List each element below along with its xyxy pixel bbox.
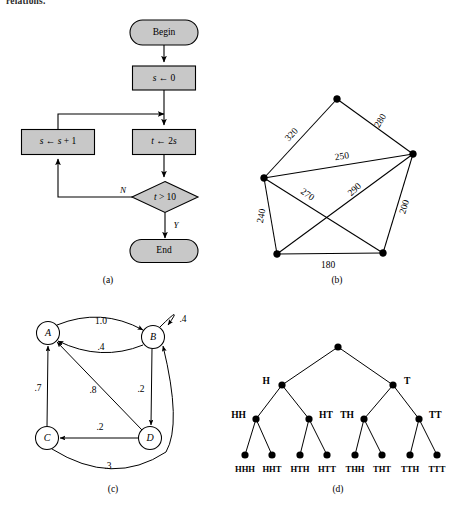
tree-node-root[interactable]	[334, 343, 341, 350]
tree-node-h[interactable]	[278, 381, 285, 388]
tree-node-t-label: T	[404, 376, 411, 386]
figure-svg: Begin s ← 0 s ← s + 1 t ← 2s t > 10 End …	[0, 0, 469, 510]
tree-edge-t-th	[364, 385, 393, 419]
graph-vertex-bottom-left[interactable]	[274, 251, 281, 258]
tree-leaf-label-hhh: HHH	[235, 464, 255, 474]
graph-weight-label-250: 250	[334, 150, 350, 162]
graph-weight-label-180: 180	[321, 260, 336, 270]
graph-weight-label-270: 270	[299, 186, 317, 203]
tree-node-thh[interactable]	[351, 451, 358, 458]
tree-edge-t-tt	[393, 385, 419, 419]
state-prob-label-a-to-b: 1.0	[95, 316, 107, 326]
tree-edge-ht-hth	[300, 419, 309, 455]
tree-leaf-label-hht: HHT	[262, 464, 281, 474]
state-edge-c-to-a	[47, 346, 48, 427]
flow-arrow-loop-back	[58, 114, 164, 130]
flow-node-test-label: t > 10	[154, 192, 176, 202]
tree-node-hh-label: HH	[231, 410, 246, 420]
state-edge-b-to-d	[151, 349, 152, 426]
panel-c-caption: (c)	[108, 484, 119, 495]
state-prob-label-b-self: .4	[179, 314, 186, 324]
tree-node-hhh[interactable]	[241, 451, 248, 458]
tree-leaf-label-thh: THH	[345, 464, 364, 474]
graph-vertex-bottom-right[interactable]	[380, 250, 387, 257]
tree-edge-h-ht	[282, 385, 309, 419]
flow-node-end-label: End	[156, 245, 172, 255]
panel-d-caption: (d)	[332, 484, 343, 495]
tree-node-ttt[interactable]	[433, 451, 440, 458]
state-edge-d-to-a	[57, 342, 142, 430]
tree-edge-hh-hhh	[245, 419, 256, 455]
tree-node-htt[interactable]	[323, 451, 330, 458]
tree-node-tht[interactable]	[378, 451, 385, 458]
tree-node-hht[interactable]	[268, 451, 275, 458]
tree-leaf-label-tth: TTH	[401, 464, 419, 474]
flow-node-init-label: s ← 0	[153, 73, 176, 83]
tree-node-tt-label: TT	[429, 410, 442, 420]
graph-weight-label-320: 320	[283, 126, 300, 143]
tree-edge-h-hh	[256, 385, 282, 419]
tree-node-hh[interactable]	[252, 415, 259, 422]
graph-edge-290	[277, 154, 413, 254]
tree-leaf-label-tht: THT	[373, 464, 391, 474]
flow-node-double-label: t ← 2s	[151, 136, 177, 146]
state-prob-label-d-to-c: .2	[96, 422, 103, 432]
tree-edge-th-tht	[364, 419, 382, 455]
graph-weight-label-290: 290	[346, 181, 363, 198]
graph-weight-label-280: 280	[372, 112, 388, 130]
tree-edge-root-t	[338, 347, 393, 385]
tree-node-h-label: H	[263, 376, 271, 386]
tree-node-ht-label: HT	[319, 410, 333, 420]
flow-node-increment-label: s ← s + 1	[40, 136, 77, 146]
tree-node-t[interactable]	[389, 381, 396, 388]
tree-node-hth[interactable]	[296, 451, 303, 458]
state-prob-label-d-to-a: .8	[89, 385, 96, 395]
flow-branch-label-no: N	[119, 185, 127, 195]
figure-container: Begin s ← 0 s ← s + 1 t ← 2s t > 10 End …	[0, 0, 469, 510]
tree-node-ht[interactable]	[305, 415, 312, 422]
state-edge-c-to-b	[52, 346, 173, 469]
tree-edge-ht-htt	[309, 419, 327, 455]
tree-edge-tt-tth	[410, 419, 419, 455]
panel-d-binary-tree: H T HH HT TH TT HHH HHT HTH HTT THH THT …	[231, 343, 446, 495]
tree-node-th-label: TH	[340, 410, 354, 420]
tree-leaf-label-htt: HTT	[318, 464, 336, 474]
state-node-b-label: B	[150, 331, 156, 342]
panel-b-weighted-graph: 320 280 250 270 290 240 200 180 (b)	[255, 96, 416, 286]
graph-vertex-right[interactable]	[410, 151, 417, 158]
state-edge-b-self-loop	[160, 314, 174, 327]
state-prob-label-c-to-a: .7	[34, 383, 41, 393]
tree-node-tth[interactable]	[406, 451, 413, 458]
graph-edge-180	[277, 253, 383, 254]
flow-branch-label-yes: Y	[173, 220, 179, 230]
state-node-a-label: A	[44, 327, 52, 338]
state-prob-label-b-to-d: .2	[137, 384, 144, 394]
state-prob-label-c-to-b: .3	[104, 461, 111, 471]
tree-node-tt[interactable]	[415, 415, 422, 422]
state-prob-label-b-to-a: .4	[97, 342, 104, 352]
flow-node-begin-label: Begin	[153, 27, 176, 37]
state-node-c-label: C	[44, 432, 51, 443]
graph-vertex-left[interactable]	[261, 175, 268, 182]
tree-edge-th-thh	[355, 419, 364, 455]
graph-edge-320	[264, 99, 337, 178]
graph-vertex-top[interactable]	[334, 96, 341, 103]
tree-leaf-label-ttt: TTT	[428, 464, 445, 474]
state-node-d-label: D	[145, 432, 154, 443]
tree-edge-hh-hht	[256, 419, 272, 455]
tree-edge-root-h	[282, 347, 338, 385]
tree-edge-tt-ttt	[419, 419, 437, 455]
panel-a-caption: (a)	[103, 275, 114, 286]
tree-node-th[interactable]	[360, 415, 367, 422]
panel-a-flowchart: Begin s ← 0 s ← s + 1 t ← 2s t > 10 End …	[22, 20, 199, 286]
graph-weight-label-240: 240	[255, 208, 268, 224]
panel-b-caption: (b)	[331, 275, 342, 286]
panel-c-state-diagram: A B C D 1.0 .4 .4 .2 .7 .8 .2 .3 (c)	[34, 314, 186, 495]
tree-leaf-label-hth: HTH	[290, 464, 309, 474]
